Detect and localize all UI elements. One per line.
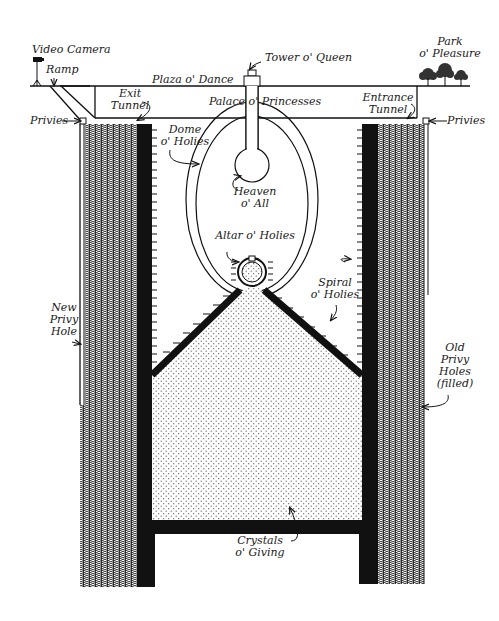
label-entrance-line2: Tunnel: [358, 104, 418, 116]
label-exit-line2: Tunnel: [105, 100, 155, 112]
tower-o-queen: [244, 70, 260, 156]
right-shaft: [362, 124, 428, 584]
label-park-line2: o' Pleasure: [415, 48, 485, 60]
label-privies-right: Privies: [447, 115, 485, 127]
label-tower: Tower o' Queen: [265, 52, 352, 64]
right-wall: [362, 124, 378, 584]
privies-left-box: [80, 118, 86, 124]
left-filled-holes: [85, 124, 137, 587]
label-ramp: Ramp: [46, 64, 79, 76]
label-plaza: Plaza o' Dance: [152, 74, 234, 86]
heaven-o-all: [235, 148, 269, 182]
label-new-privy-line3: Hole: [44, 326, 84, 338]
label-dome-line2: o' Holies: [155, 136, 215, 148]
altar-o-holies: [231, 256, 273, 286]
video-camera-icon: [33, 57, 44, 86]
left-shaft: [80, 124, 152, 587]
park-trees-icon: [419, 63, 468, 86]
label-video-camera: Video Camera: [32, 44, 111, 56]
privies-right-box: [423, 118, 429, 124]
label-palace: Palace o' Princesses: [200, 96, 330, 108]
old-privy-holes: [378, 124, 424, 584]
label-altar: Altar o' Holies: [215, 230, 295, 242]
diagram-canvas: Video Camera Ramp Plaza o' Dance Tower o…: [0, 0, 499, 621]
label-privies-left: Privies: [30, 115, 68, 127]
left-wall: [137, 124, 152, 587]
label-heaven-line2: o' All: [230, 198, 280, 210]
crystals-o-giving: [152, 282, 362, 520]
label-old-privy-line4: (filled): [430, 378, 480, 390]
label-spiral-line2: o' Holies: [305, 289, 365, 301]
label-crystals-line2: o' Giving: [225, 547, 295, 559]
